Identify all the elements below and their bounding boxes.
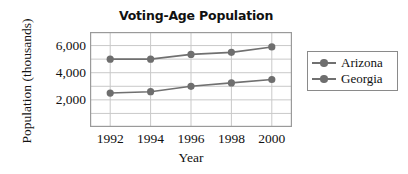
y-axis-tick-labels: 2,0004,0006,000 <box>38 0 86 174</box>
vertical-gridlines <box>110 33 272 126</box>
x-tick-label: 2000 <box>249 131 295 147</box>
legend-item-georgia[interactable]: Georgia <box>312 71 393 87</box>
legend-item-arizona[interactable]: Arizona <box>312 55 393 71</box>
y-tick-label: 4,000 <box>40 65 86 81</box>
chart-figure: Voting-Age Population Population (thousa… <box>0 0 408 174</box>
x-tick-label: 1998 <box>208 131 254 147</box>
plot-area <box>90 32 292 127</box>
data-point-arizona-1998 <box>228 79 235 86</box>
x-axis-tick-labels: 19921994199619982000 <box>90 131 292 151</box>
y-axis-title: Population (thousands) <box>19 1 35 161</box>
plot-svg <box>90 32 292 127</box>
x-axis-title: Year <box>90 150 292 166</box>
data-point-arizona-1994 <box>147 88 154 95</box>
data-point-georgia-1998 <box>228 49 235 56</box>
data-point-georgia-1992 <box>107 56 114 63</box>
legend-marker-icon <box>312 73 336 85</box>
y-tick-label: 6,000 <box>40 38 86 54</box>
data-point-arizona-1996 <box>187 83 194 90</box>
x-tick-label: 1994 <box>128 131 174 147</box>
chart-title: Voting-Age Population <box>96 8 296 23</box>
legend-marker-icon <box>312 57 336 69</box>
data-point-arizona-1992 <box>107 89 114 96</box>
chart-legend: Arizona Georgia <box>307 51 398 91</box>
data-point-georgia-2000 <box>268 43 275 50</box>
legend-label: Arizona <box>336 55 383 71</box>
y-tick-label: 2,000 <box>40 92 86 108</box>
legend-label: Georgia <box>336 71 383 87</box>
data-point-arizona-2000 <box>268 76 275 83</box>
x-tick-label: 1996 <box>168 131 214 147</box>
x-tick-label: 1992 <box>87 131 133 147</box>
data-point-georgia-1996 <box>187 51 194 58</box>
data-point-georgia-1994 <box>147 56 154 63</box>
